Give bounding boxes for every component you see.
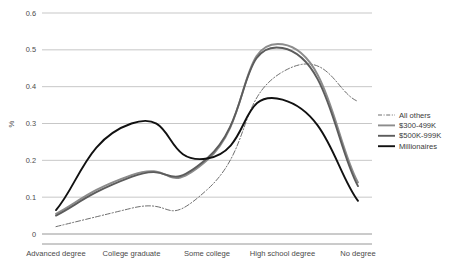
- x-axis-tick-labels: Advanced degreeCollege graduateSome coll…: [26, 249, 376, 258]
- legend-label: All others: [399, 111, 431, 120]
- series-group: [56, 44, 358, 227]
- y-axis-tick-labels: 00.10.20.30.40.50.6: [26, 9, 36, 239]
- y-tick-label: 0.5: [26, 45, 36, 54]
- legend-label: Millionaires: [399, 142, 437, 151]
- series-line: [56, 98, 358, 210]
- y-tick-label: 0.2: [26, 156, 36, 165]
- legend-label: $500K-999K: [399, 131, 441, 140]
- x-tick-label: High school degree: [250, 249, 315, 258]
- legend-label: $300-499K: [399, 121, 436, 130]
- y-axis-title: %: [7, 120, 16, 127]
- x-tick-label: College graduate: [103, 249, 161, 258]
- chart-legend: All others$300-499K$500K-999KMillionaire…: [378, 111, 441, 151]
- y-tick-label: 0.6: [26, 9, 36, 18]
- y-tick-label: 0: [32, 230, 36, 239]
- line-chart: 00.10.20.30.40.50.6 Advanced degreeColle…: [0, 0, 450, 259]
- chart-container: 00.10.20.30.40.50.6 Advanced degreeColle…: [0, 0, 450, 259]
- series-line: [56, 64, 358, 227]
- gridlines-group: [42, 13, 372, 244]
- x-tick-label: Advanced degree: [26, 249, 86, 258]
- y-tick-label: 0.3: [26, 119, 36, 128]
- x-tick-label: Some college: [184, 249, 230, 258]
- x-tick-label: No degree: [340, 249, 375, 258]
- y-tick-label: 0.4: [26, 82, 36, 91]
- y-tick-label: 0.1: [26, 193, 36, 202]
